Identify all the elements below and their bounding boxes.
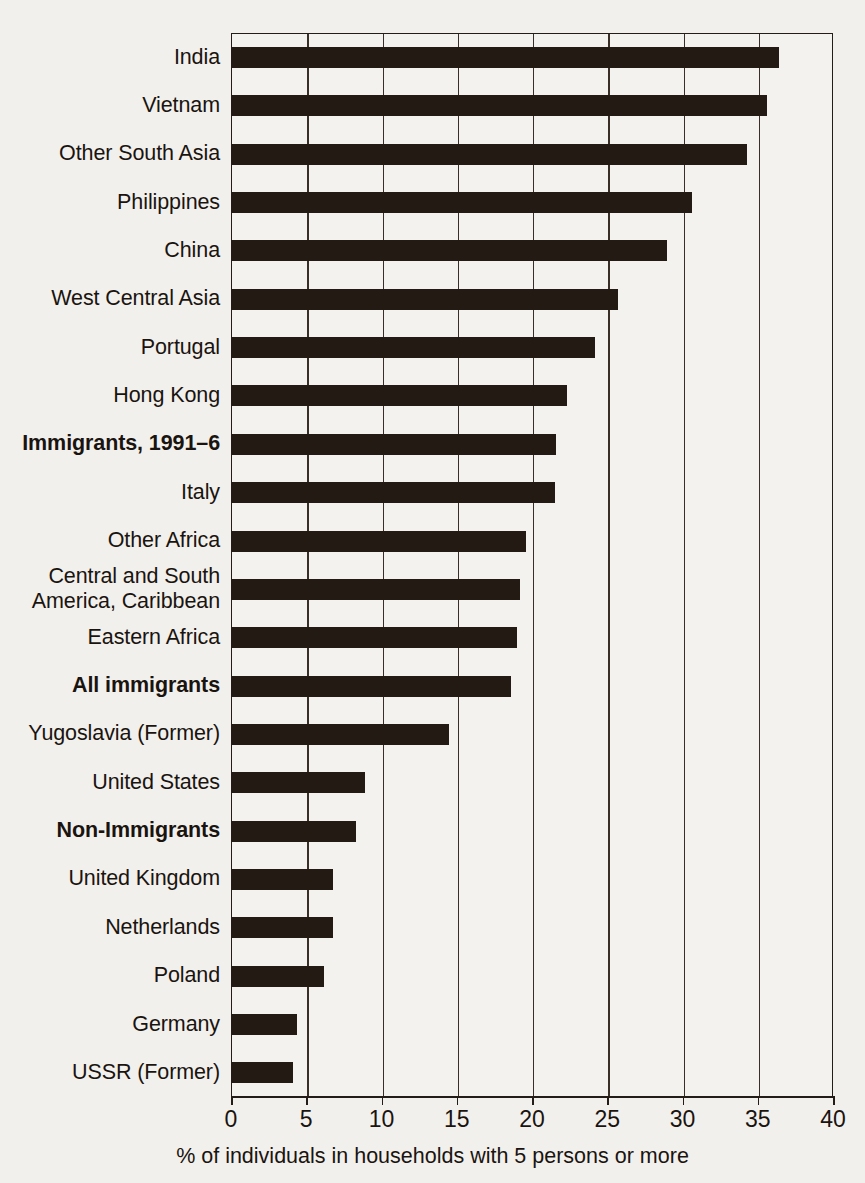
x-tick-label: 25: [572, 1106, 642, 1133]
category-label: West Central Asia: [0, 275, 220, 323]
bar: [231, 95, 767, 116]
bar: [231, 337, 595, 358]
category-label: China: [0, 226, 220, 274]
bar-row: India: [0, 33, 865, 81]
category-label: Non-Immigrants: [0, 807, 220, 855]
category-label: Vietnam: [0, 81, 220, 129]
bar-row: United Kingdom: [0, 855, 865, 903]
bar-row: United States: [0, 758, 865, 806]
category-label: Italy: [0, 468, 220, 516]
bar-row: USSR (Former): [0, 1048, 865, 1096]
bar-row: Germany: [0, 1000, 865, 1048]
bar: [231, 627, 517, 648]
x-tick-15: [457, 1096, 459, 1105]
bar-row: Other South Asia: [0, 130, 865, 178]
bar-row: Other Africa: [0, 517, 865, 565]
bar: [231, 1014, 297, 1035]
x-tick-25: [607, 1096, 609, 1105]
category-label: United States: [0, 758, 220, 806]
x-tick-label: 20: [497, 1106, 567, 1133]
x-tick-5: [306, 1096, 308, 1105]
category-label: Philippines: [0, 178, 220, 226]
category-label: All immigrants: [0, 662, 220, 710]
bar-row: Vietnam: [0, 81, 865, 129]
category-label: Germany: [0, 1000, 220, 1048]
bar-chart: IndiaVietnamOther South AsiaPhilippinesC…: [0, 0, 865, 1183]
bar-row: Yugoslavia (Former): [0, 710, 865, 758]
bar: [231, 434, 556, 455]
bar: [231, 47, 779, 68]
bar-row: Italy: [0, 468, 865, 516]
x-tick-label: 10: [347, 1106, 417, 1133]
category-label: Immigrants, 1991–6: [0, 420, 220, 468]
bar: [231, 1062, 293, 1083]
bar: [231, 144, 747, 165]
bar: [231, 869, 333, 890]
x-tick-40: [833, 1096, 835, 1105]
bar: [231, 676, 511, 697]
x-tick-35: [758, 1096, 760, 1105]
x-tick-label: 30: [648, 1106, 718, 1133]
bar: [231, 579, 520, 600]
bar-row: Non-Immigrants: [0, 807, 865, 855]
x-tick-label: 35: [723, 1106, 793, 1133]
bar-row: Philippines: [0, 178, 865, 226]
bar-row: Immigrants, 1991–6: [0, 420, 865, 468]
bar-row: Hong Kong: [0, 371, 865, 419]
bar: [231, 821, 356, 842]
category-label: Poland: [0, 952, 220, 1000]
bar-row: Netherlands: [0, 903, 865, 951]
category-label: Hong Kong: [0, 371, 220, 419]
x-tick-20: [532, 1096, 534, 1105]
category-label: Portugal: [0, 323, 220, 371]
bar-row: Portugal: [0, 323, 865, 371]
x-tick-label: 0: [196, 1106, 266, 1133]
x-tick-label: 15: [422, 1106, 492, 1133]
category-label: Eastern Africa: [0, 613, 220, 661]
category-label: Netherlands: [0, 903, 220, 951]
bar-row: Poland: [0, 952, 865, 1000]
bar-row: Central and South America, Caribbean: [0, 565, 865, 613]
bar: [231, 772, 365, 793]
bar: [231, 482, 555, 503]
category-label: Other Africa: [0, 517, 220, 565]
x-tick-0: [231, 1096, 233, 1105]
bar: [231, 724, 449, 745]
x-tick-label: 40: [798, 1106, 865, 1133]
bar-rows: IndiaVietnamOther South AsiaPhilippinesC…: [0, 33, 865, 1097]
category-label: Yugoslavia (Former): [0, 710, 220, 758]
bar: [231, 966, 324, 987]
x-tick-30: [683, 1096, 685, 1105]
bar-row: All immigrants: [0, 662, 865, 710]
bar-row: China: [0, 226, 865, 274]
category-label: Other South Asia: [0, 130, 220, 178]
category-label: Central and South America, Caribbean: [0, 565, 220, 613]
bar: [231, 192, 692, 213]
x-tick-10: [382, 1096, 384, 1105]
bar: [231, 385, 567, 406]
category-label: USSR (Former): [0, 1048, 220, 1096]
page-top-margin: [0, 0, 865, 14]
bar: [231, 531, 526, 552]
bar-row: West Central Asia: [0, 275, 865, 323]
bar: [231, 240, 667, 261]
bar-row: Eastern Africa: [0, 613, 865, 661]
x-tick-label: 5: [271, 1106, 341, 1133]
category-label: India: [0, 33, 220, 81]
x-axis-title: % of individuals in households with 5 pe…: [0, 1144, 865, 1169]
bar: [231, 289, 618, 310]
category-label: United Kingdom: [0, 855, 220, 903]
bar: [231, 917, 333, 938]
